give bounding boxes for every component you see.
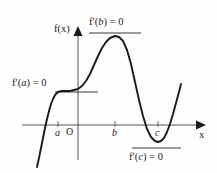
y-axis-arrow-icon: [74, 26, 83, 36]
annotation-f-prime-c-suffix: ) = 0: [143, 151, 163, 162]
calculus-function-graph: f′(a) = 0 f′(b) = 0 f′(c) = 0 f(x) x a O…: [0, 0, 217, 173]
origin-label: O: [66, 127, 73, 137]
annotation-f-prime-a-prefix: f′(: [12, 77, 21, 88]
function-curve: [37, 36, 181, 167]
annotation-f-prime-c-prefix: f′(: [129, 151, 138, 162]
annotation-f-prime-b: f′(b) = 0: [89, 17, 123, 28]
x-axis-label: x: [199, 130, 204, 141]
tick-label-c: c: [155, 128, 159, 138]
tick-label-b: b: [112, 128, 117, 138]
annotation-f-prime-a-suffix: ) = 0: [27, 77, 47, 88]
annotation-f-prime-a: f′(a) = 0: [12, 78, 46, 89]
annotation-f-prime-c: f′(c) = 0: [129, 152, 163, 163]
tick-label-a: a: [55, 128, 60, 138]
annotation-f-prime-b-prefix: f′(: [89, 16, 98, 27]
y-axis-label: f(x): [54, 24, 70, 35]
annotation-f-prime-b-suffix: ) = 0: [104, 16, 124, 27]
